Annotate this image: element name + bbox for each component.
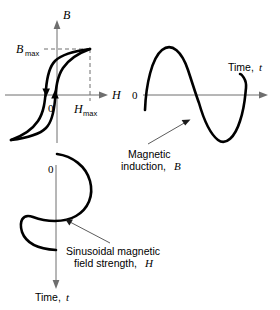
induction-callout-symbol: B (174, 160, 181, 172)
field-callout-leader (70, 222, 110, 243)
hysteresis-origin-label: 0 (48, 102, 54, 114)
hysteresis-panel: B H B max H max 0 (5, 8, 122, 143)
hysteresis-direction-arrow-down (42, 89, 50, 98)
field-strength-panel: 0 Sinusoidal magnetic field strength, H … (21, 154, 160, 303)
hysteresis-b-axis-label: B (63, 8, 71, 22)
field-callout-line1: Sinusoidal magnetic (66, 245, 160, 257)
induction-origin-label: 0 (132, 89, 138, 101)
field-callout-line2: field strength, (74, 257, 137, 269)
induction-time-axis-arrowhead (259, 92, 268, 99)
field-time-label: Time, (35, 291, 61, 303)
field-time-axis-arrowhead (53, 280, 60, 289)
bmax-label: B (16, 42, 24, 56)
induction-callout-leader (148, 122, 186, 144)
hysteresis-h-axis-arrowhead (99, 92, 108, 99)
figure-container: B H B max H max 0 0 Time, t (0, 0, 280, 310)
field-origin-label: 0 (48, 163, 54, 175)
hysteresis-b-axis-arrowhead (54, 20, 61, 29)
induction-callout-line1: Magnetic (128, 148, 171, 160)
induction-time-symbol: t (259, 61, 263, 73)
hmax-subscript: max (83, 109, 97, 118)
physics-figure: B H B max H max 0 0 Time, t (0, 0, 280, 310)
induction-panel: 0 Time, t Magnetic induction, B (121, 47, 268, 172)
bmax-subscript: max (25, 49, 39, 58)
hysteresis-direction-arrow-up (51, 90, 59, 99)
induction-callout-arrowhead (182, 119, 191, 125)
induction-callout-line2: induction, (121, 160, 166, 172)
hysteresis-h-axis-label: H (111, 88, 122, 102)
field-callout-symbol: H (144, 257, 154, 269)
induction-time-label: Time, (228, 61, 254, 73)
field-time-symbol: t (66, 291, 70, 303)
